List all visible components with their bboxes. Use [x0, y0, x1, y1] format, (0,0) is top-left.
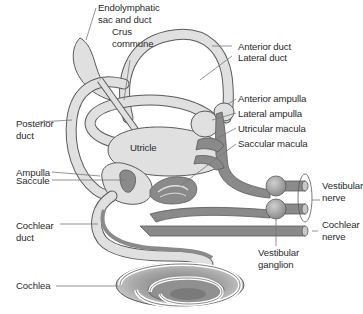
label-cochlea: Cochlea — [16, 280, 51, 292]
label-vestibular-ganglion: Vestibular ganglion — [258, 247, 299, 270]
label-cochlear-nerve: Cochlear nerve — [322, 219, 360, 242]
saccular-macula — [150, 177, 197, 204]
label-cochlear-duct: Cochlear duct — [16, 220, 54, 243]
label-crus-commune: Crus commune — [112, 26, 153, 49]
label-saccular-macula: Saccular macula — [238, 138, 307, 150]
label-saccule: Saccule — [16, 175, 49, 187]
label-posterior-duct: Posterior duct — [16, 118, 54, 141]
cochlear-nerve — [140, 226, 308, 236]
cochlea — [116, 263, 244, 307]
label-lateral-ampulla: Lateral ampulla — [238, 108, 302, 120]
label-utricular-macula: Utricular macula — [238, 123, 306, 135]
label-anterior-duct: Anterior duct — [238, 41, 291, 53]
label-anterior-ampulla: Anterior ampulla — [238, 93, 306, 105]
label-utricle: Utricle — [130, 142, 156, 154]
label-vestibular-nerve: Vestibular nerve — [322, 180, 363, 203]
label-endolymphatic-sac-and-duct: Endolymphatic sac and duct — [98, 2, 160, 25]
label-lateral-duct: Lateral duct — [238, 52, 287, 64]
